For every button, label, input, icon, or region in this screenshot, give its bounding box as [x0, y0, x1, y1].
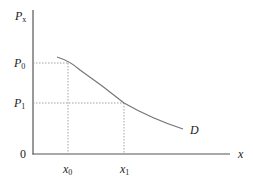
- tick-x1-sub: 1: [125, 168, 129, 177]
- tick-label-p1: P1: [14, 97, 25, 111]
- y-axis-label: Px: [15, 10, 26, 24]
- x-axis-label: x: [238, 148, 243, 160]
- demand-curve: [57, 57, 183, 129]
- tick-label-x0: x0: [63, 163, 72, 177]
- tick-p1-sub: 1: [21, 102, 25, 111]
- tick-x0-sub: 0: [68, 168, 72, 177]
- tick-label-x1: x1: [120, 163, 129, 177]
- demand-diagram: [0, 0, 253, 186]
- origin-label: 0: [20, 148, 26, 160]
- curve-label-d: D: [190, 124, 199, 136]
- y-axis-label-sub: x: [22, 15, 26, 24]
- tick-p0-sub: 0: [21, 62, 25, 71]
- tick-label-p0: P0: [14, 57, 25, 71]
